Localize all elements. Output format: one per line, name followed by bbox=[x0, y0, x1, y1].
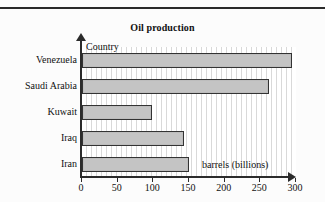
y-tick-label-kuwait: Kuwait bbox=[48, 106, 77, 117]
chart-title: Oil production bbox=[0, 22, 325, 33]
x-tick-label-100: 100 bbox=[137, 182, 167, 193]
plot-area bbox=[81, 47, 296, 177]
x-tick-label-150: 150 bbox=[173, 182, 203, 193]
y-axis-line bbox=[80, 39, 82, 178]
x-axis-title: barrels (billions) bbox=[202, 159, 268, 170]
x-tick-label-0: 0 bbox=[66, 182, 96, 193]
chart-page: Oil production Country barrels (billions… bbox=[0, 0, 325, 202]
x-tick-label-200: 200 bbox=[209, 182, 239, 193]
bar-kuwait bbox=[82, 105, 152, 120]
x-tick-label-250: 250 bbox=[244, 182, 274, 193]
y-tick-label-venezuela: Venezuela bbox=[36, 54, 77, 65]
y-tick-label-iran: Iran bbox=[61, 158, 77, 169]
y-axis-title: Country bbox=[86, 41, 119, 52]
x-tick-label-50: 50 bbox=[102, 182, 132, 193]
bar-venezuela bbox=[82, 53, 292, 68]
bar-iran bbox=[82, 157, 189, 172]
x-tick-label-300: 300 bbox=[280, 182, 310, 193]
bar-iraq bbox=[82, 131, 184, 146]
y-tick-label-saudi-arabia: Saudi Arabia bbox=[25, 80, 77, 91]
chart-figure: Oil production Country barrels (billions… bbox=[0, 9, 325, 202]
bar-saudi-arabia bbox=[82, 79, 269, 94]
y-tick-label-iraq: Iraq bbox=[61, 132, 77, 143]
y-axis-arrow-icon bbox=[76, 33, 86, 41]
